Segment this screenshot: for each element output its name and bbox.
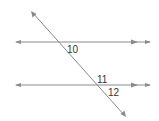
diagram-canvas [0, 0, 159, 121]
transversal-line [31, 11, 126, 117]
parallel-mark-icon [131, 83, 138, 88]
upper-parallel-line [15, 40, 151, 45]
arrow-left-icon [15, 40, 21, 44]
arrow-left-icon [15, 83, 21, 87]
angle-label-12: 12 [108, 88, 119, 98]
angle-label-11: 11 [97, 75, 107, 85]
lower-parallel-line [15, 83, 151, 88]
arrow-right-icon [145, 40, 151, 44]
angle-label-10: 10 [67, 45, 78, 55]
parallel-mark-icon [131, 40, 138, 45]
arrow-right-icon [145, 83, 151, 87]
